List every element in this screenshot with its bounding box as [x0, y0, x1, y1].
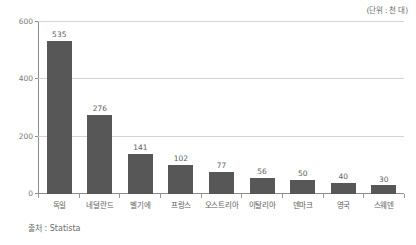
- x-axis-tick: [201, 194, 202, 198]
- y-tick-label: 400: [19, 74, 33, 83]
- y-tick-mark: [35, 78, 38, 79]
- bar-value-label: 50: [282, 170, 323, 178]
- y-tick-label: 0: [28, 189, 33, 198]
- bar-value-label: 276: [80, 105, 121, 113]
- bar: [47, 41, 72, 194]
- x-axis-tick: [363, 194, 364, 198]
- bar-slot: 56: [242, 22, 283, 194]
- y-tick-mark: [35, 21, 38, 22]
- category-label: 네덜란드: [80, 199, 121, 210]
- bar-slot: 50: [282, 22, 323, 194]
- x-axis-tick: [160, 194, 161, 198]
- x-axis-ticks: [38, 194, 404, 198]
- x-axis-tick: [79, 194, 80, 198]
- category-label: 오스트리아: [201, 199, 242, 210]
- bar-value-label: 102: [161, 155, 202, 163]
- y-tick-label: 200: [19, 131, 33, 140]
- bar-value-label: 77: [201, 162, 242, 170]
- bar: [128, 154, 153, 194]
- y-tick-label: 600: [19, 17, 33, 26]
- bar-slot: 77: [201, 22, 242, 194]
- x-axis-tick: [282, 194, 283, 198]
- x-axis-tick: [241, 194, 242, 198]
- bar: [331, 183, 356, 194]
- bar-slot: 141: [120, 22, 161, 194]
- category-label: 이탈리아: [242, 199, 283, 210]
- bar: [250, 178, 275, 194]
- x-axis-tick: [323, 194, 324, 198]
- bar-slot: 535: [39, 22, 80, 194]
- category-label: 독일: [39, 199, 80, 210]
- bar-chart: (단위 : 천 대) 0200400600 535276141102775650…: [0, 0, 416, 245]
- bar: [168, 165, 193, 194]
- x-axis-tick: [38, 194, 39, 198]
- bar: [87, 115, 112, 194]
- bar-slot: 30: [364, 22, 405, 194]
- bar-value-label: 535: [39, 31, 80, 39]
- bar-value-label: 40: [323, 173, 364, 181]
- bar-slot: 276: [80, 22, 121, 194]
- bar-value-label: 141: [120, 144, 161, 152]
- bar: [290, 180, 315, 194]
- bar-slot: 102: [161, 22, 202, 194]
- bars-layer: 5352761411027756504030: [39, 22, 404, 194]
- category-label: 덴마크: [282, 199, 323, 210]
- plot-area: 0200400600 5352761411027756504030: [38, 22, 404, 194]
- y-tick-mark: [35, 136, 38, 137]
- category-label: 프랑스: [161, 199, 202, 210]
- bar: [209, 172, 234, 194]
- bar-value-label: 30: [364, 176, 405, 184]
- category-label: 벨기에: [120, 199, 161, 210]
- bar-value-label: 56: [242, 168, 283, 176]
- bar-slot: 40: [323, 22, 364, 194]
- x-axis-category-labels: 독일네덜란드벨기에프랑스오스트리아이탈리아덴마크영국스웨덴: [39, 199, 404, 210]
- x-axis-tick: [404, 194, 405, 198]
- category-label: 스웨덴: [364, 199, 405, 210]
- source-note: 출처 : Statista: [28, 222, 80, 233]
- unit-annotation: (단위 : 천 대): [366, 4, 408, 15]
- category-label: 영국: [323, 199, 364, 210]
- x-axis-tick: [119, 194, 120, 198]
- bar: [371, 185, 396, 194]
